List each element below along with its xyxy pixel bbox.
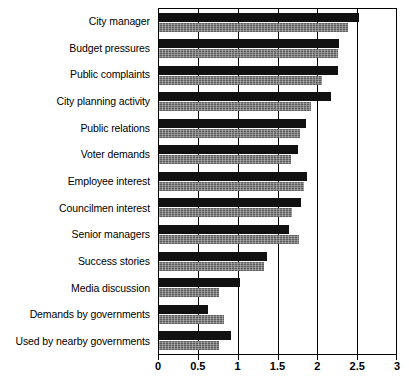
category-label: Budget pressures <box>0 35 155 62</box>
category-label: Demands by governments <box>0 302 155 329</box>
bar-group <box>159 248 396 275</box>
category-label: Senior managers <box>0 222 155 249</box>
bar-group <box>159 221 396 248</box>
bar-series-b <box>159 129 300 138</box>
bar-series-a <box>159 252 267 261</box>
category-label: Success stories <box>0 248 155 275</box>
bar-series-b <box>159 341 219 350</box>
bar-group <box>159 195 396 222</box>
bar-group <box>159 301 396 328</box>
category-label: Councilmen interest <box>0 195 155 222</box>
x-tick-label: 1 <box>235 360 241 372</box>
x-tick-label: 0 <box>155 360 161 372</box>
bar-series-a <box>159 13 359 22</box>
bar-group <box>159 168 396 195</box>
plot-area <box>158 8 397 355</box>
category-label: Employee interest <box>0 168 155 195</box>
x-tick-label: 3 <box>394 360 400 372</box>
bar-group <box>159 115 396 142</box>
bar-series-b <box>159 235 299 244</box>
category-label: City planning activity <box>0 88 155 115</box>
category-label: City manager <box>0 8 155 35</box>
bar-series-a <box>159 278 240 287</box>
bar-chart: City managerBudget pressuresPublic compl… <box>0 0 409 389</box>
bar-group <box>159 274 396 301</box>
bar-series-b <box>159 102 311 111</box>
x-axis-tick-labels: 00.511.522.53 <box>158 360 397 378</box>
bar-series-b <box>159 315 224 324</box>
bar-series-a <box>159 145 298 154</box>
x-tick-label: 2.5 <box>350 360 365 372</box>
bar-group <box>159 142 396 169</box>
category-label: Voter demands <box>0 141 155 168</box>
bar-series-a <box>159 225 289 234</box>
bar-group <box>159 89 396 116</box>
bar-series-a <box>159 198 301 207</box>
bar-series-b <box>159 182 304 191</box>
bar-series-a <box>159 66 338 75</box>
bar-series-b <box>159 76 322 85</box>
bar-series-a <box>159 119 306 128</box>
bar-series-b <box>159 262 264 271</box>
category-label: Media discussion <box>0 275 155 302</box>
bar-series-a <box>159 92 331 101</box>
bar-series-b <box>159 23 348 32</box>
category-label-column: City managerBudget pressuresPublic compl… <box>0 8 155 355</box>
category-label: Public complaints <box>0 61 155 88</box>
category-label: Public relations <box>0 115 155 142</box>
bar-series-b <box>159 208 292 217</box>
bar-series-a <box>159 305 208 314</box>
bar-group <box>159 62 396 89</box>
bar-series-b <box>159 155 291 164</box>
bar-rows <box>159 9 396 354</box>
x-tick-label: 1.5 <box>270 360 285 372</box>
bar-group <box>159 9 396 36</box>
bar-series-b <box>159 288 219 297</box>
bar-group <box>159 327 396 354</box>
bar-series-b <box>159 49 338 58</box>
x-tick-label: 2 <box>314 360 320 372</box>
bar-series-a <box>159 172 307 181</box>
category-label: Used by nearby governments <box>0 328 155 355</box>
bar-group <box>159 36 396 63</box>
x-tick-label: 0.5 <box>190 360 205 372</box>
bar-series-a <box>159 331 231 340</box>
bar-series-a <box>159 39 339 48</box>
